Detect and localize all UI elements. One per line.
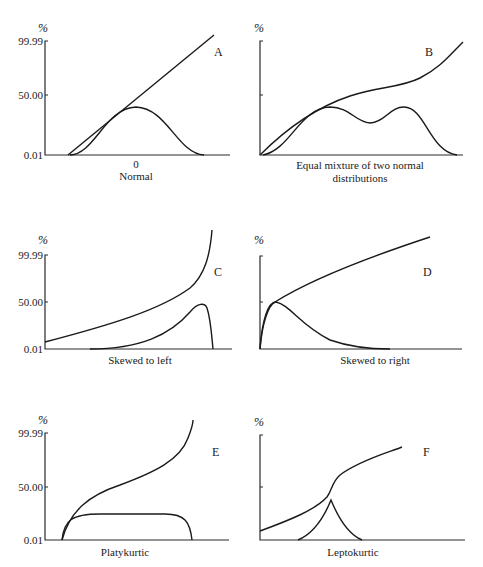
panel-e-cumulative-curve — [62, 420, 193, 540]
panel-b-caption-line1: Equal mixture of two normal — [280, 159, 440, 172]
panel-c-frequency-curve — [90, 304, 213, 349]
panel-d-caption: Skewed to right — [325, 354, 425, 367]
panel-c-tick-bottom: 0.01 — [3, 343, 43, 355]
figure-canvas — [0, 0, 483, 567]
panel-c-caption: Skewed to left — [90, 354, 190, 367]
panel-e-letter: E — [212, 446, 219, 458]
panel-e-y-unit: % — [38, 414, 48, 426]
panel-d-frequency-curve — [260, 302, 390, 349]
panel-c-tick-mid: 50.00 — [3, 296, 43, 308]
panel-e-axes — [45, 433, 229, 540]
panel-a-y-unit: % — [38, 22, 48, 34]
panel-d-letter: D — [423, 266, 432, 278]
panel-f — [260, 435, 465, 540]
panel-c-cumulative-curve — [45, 230, 212, 342]
panel-c-tick-top: 99.99 — [3, 249, 43, 261]
panel-b-y-unit: % — [254, 22, 264, 34]
panel-d-cumulative-curve — [260, 237, 430, 349]
panel-d — [260, 237, 462, 349]
panel-e-tick-mid: 50.00 — [3, 481, 43, 493]
panel-b-caption-line2: distributions — [280, 172, 440, 185]
panel-e-tick-top: 99.99 — [3, 427, 43, 439]
panel-e-frequency-curve — [62, 514, 192, 540]
panel-f-y-unit: % — [254, 416, 264, 428]
panel-a-tick-bottom: 0.01 — [3, 149, 43, 161]
panel-a-frequency-curve — [70, 107, 204, 155]
panel-b-letter: B — [425, 46, 433, 58]
panel-a-tick-mid: 50.00 — [3, 89, 43, 101]
panel-f-caption: Leptokurtic — [318, 546, 388, 559]
panel-f-letter: F — [423, 446, 430, 458]
panel-a-caption: Normal — [96, 170, 176, 183]
panel-a-tick-top: 99.99 — [3, 35, 43, 47]
panel-a-letter: A — [214, 46, 223, 58]
panel-c-y-unit: % — [38, 234, 48, 246]
panel-d-y-unit: % — [254, 234, 264, 246]
panel-f-axes — [260, 435, 465, 540]
panel-e-caption: Platykurtic — [90, 546, 160, 559]
panel-c — [45, 230, 232, 349]
panel-a-cumulative-line — [68, 35, 214, 155]
panel-e-tick-bottom: 0.01 — [3, 534, 43, 546]
panel-a — [45, 35, 230, 155]
panel-b-frequency-curve — [263, 107, 457, 155]
panel-f-cumulative-curve — [260, 447, 402, 531]
panel-e — [45, 420, 229, 540]
panel-f-frequency-curve — [298, 500, 362, 540]
panel-c-letter: C — [214, 266, 222, 278]
